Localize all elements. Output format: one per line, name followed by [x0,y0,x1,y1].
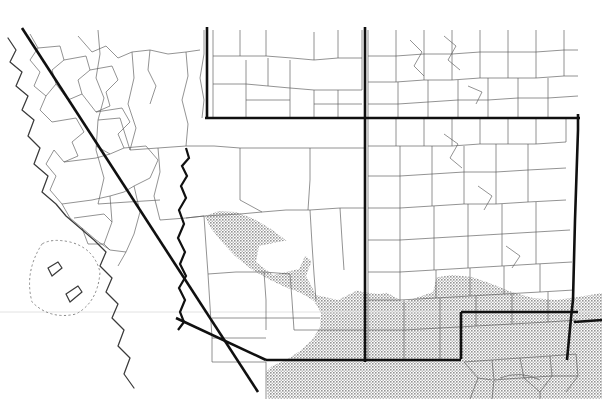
map-canvas [0,0,602,399]
map-figure: Southwestern United States county map wi… [0,0,602,399]
